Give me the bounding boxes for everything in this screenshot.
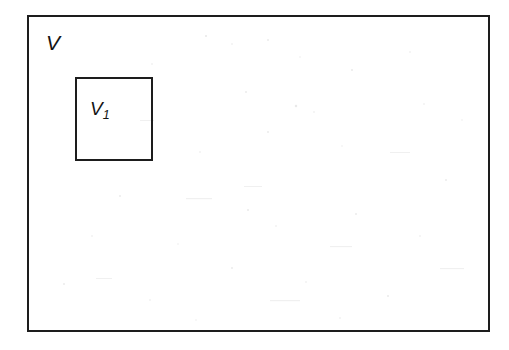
figure-canvas: V V1	[0, 0, 509, 350]
outer-region-label: V	[46, 32, 60, 53]
inner-region-label-subscript: 1	[103, 108, 110, 122]
inner-region-rectangle-V1: V1	[75, 77, 153, 161]
inner-region-label-base: V	[90, 98, 103, 119]
inner-region-label: V1	[90, 99, 110, 118]
outer-region-rectangle-V: V	[27, 15, 490, 332]
